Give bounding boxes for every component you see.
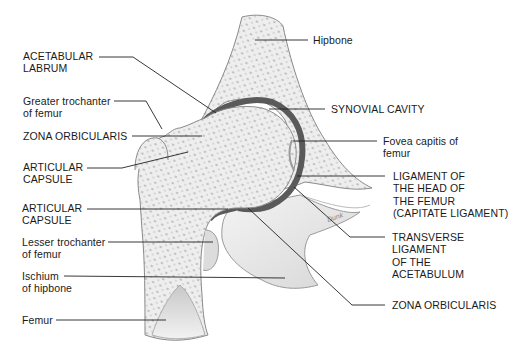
label-fovea-capitis: Fovea capitis of femur <box>383 135 458 160</box>
label-hipbone: Hipbone <box>313 34 353 46</box>
label-zona-orbicularis-right: ZONA ORBICULARIS <box>392 299 496 311</box>
label-articular-capsule-upper: ARTICULAR CAPSULE <box>23 161 83 186</box>
label-lesser-trochanter: Lesser trochanter of femur <box>22 236 105 261</box>
label-ligament-head-femur: LIGAMENT OF THE HEAD OF THE FEMUR (CAPIT… <box>393 170 508 219</box>
label-transverse-ligament: TRANSVERSE LIGAMENT OF THE ACETABULUM <box>392 231 464 280</box>
label-synovial-cavity: SYNOVIAL CAVITY <box>331 103 425 115</box>
label-femur: Femur <box>22 314 53 326</box>
leader-greater-trochanter <box>114 101 162 129</box>
leader-acetabular-labrum <box>99 57 216 113</box>
label-greater-trochanter: Greater trochanter of femur <box>23 95 111 120</box>
label-ischium: Ischium of hipbone <box>22 270 72 295</box>
lesser-trochanter-shape <box>203 230 218 270</box>
label-zona-orbicularis-left: ZONA ORBICULARIS <box>23 130 127 142</box>
label-articular-capsule-lower: ARTICULAR CAPSULE <box>22 202 82 227</box>
hip-joint-diagram: Dunk ACETABULAR LABRUM Greater trochante… <box>0 0 529 351</box>
label-acetabular-labrum: ACETABULAR LABRUM <box>23 50 93 75</box>
